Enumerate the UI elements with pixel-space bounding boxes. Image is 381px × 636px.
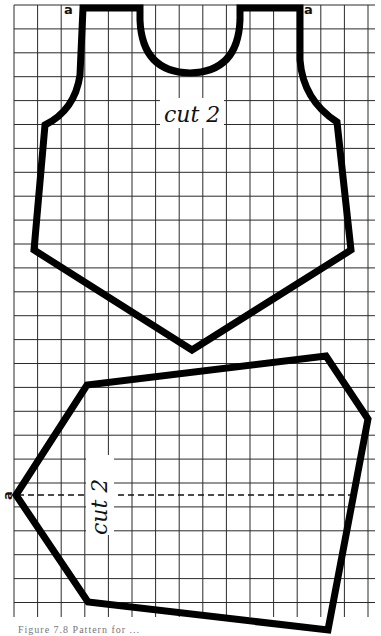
figure-caption: Figure 7.8 Pattern for ...	[18, 624, 140, 635]
lower-panel-outline	[16, 356, 368, 630]
bottom-cut-label: cut 2	[87, 479, 112, 535]
marker-a-right: a	[304, 2, 313, 17]
marker-a-bottom: a	[0, 491, 15, 500]
bodice-outline	[34, 8, 351, 350]
top-cut-label: cut 2	[164, 102, 220, 127]
pattern-diagram: cut 2 a a cut 2 a	[0, 0, 381, 636]
marker-a-left: a	[64, 2, 73, 17]
graph-grid	[14, 5, 375, 617]
